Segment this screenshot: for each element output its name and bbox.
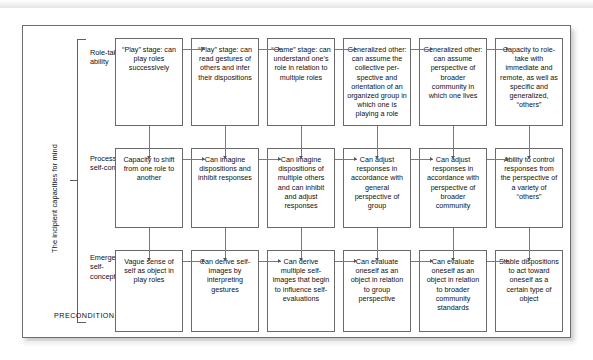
arrowhead-right-r3-c2 [278, 259, 281, 263]
node-role-taking-ability-3: “Game” stage: can understand one’s role … [267, 38, 335, 126]
figure-frame: The incipient capacities for mind Role-t… [22, 25, 571, 338]
connector-v-r2-c4 [377, 228, 378, 261]
connector-v-r1-c4 [377, 126, 378, 159]
vertical-axis-caption: The incipient capacities for mind [50, 104, 59, 294]
arrowhead-down-r2-c5 [451, 258, 455, 261]
arrowhead-down-r1-c1 [147, 156, 151, 159]
page-top-band [0, 0, 593, 8]
arrowhead-right-r3-c1 [202, 259, 205, 263]
arrowhead-right-r1-c5 [506, 47, 509, 51]
connector-v-r2-c1 [149, 228, 150, 261]
arrowhead-down-r2-c3 [299, 258, 303, 261]
connector-v-r1-c3 [301, 126, 302, 159]
arrowhead-right-r2-c2 [278, 157, 281, 161]
arrowhead-right-r1-c1 [202, 47, 205, 51]
connector-v-r1-c6 [529, 126, 530, 159]
arrowhead-right-r3-c3 [354, 259, 357, 263]
arrowhead-down-r2-c6 [527, 258, 531, 261]
arrowhead-right-r2-c4 [430, 157, 433, 161]
connector-v-r2-c6 [529, 228, 530, 261]
node-role-taking-ability-5: Generalized other: can assume perspectiv… [419, 38, 487, 126]
connector-v-r1-c5 [453, 126, 454, 159]
capacities-bracket-tick [70, 180, 78, 181]
arrowhead-right-r1-c4 [430, 47, 433, 51]
node-processes-of-self-control-1: Capacity to shift from one role to anoth… [115, 148, 183, 228]
arrowhead-down-r2-c1 [147, 258, 151, 261]
arrowhead-down-r1-c5 [451, 156, 455, 159]
node-emergence-of-self-conception-1: Vague sense of self as object in play ro… [115, 250, 183, 332]
arrowhead-down-r1-c6 [527, 156, 531, 159]
arrowhead-right-r2-c3 [354, 157, 357, 161]
node-role-taking-ability-4: Generalized other: can assume the collec… [343, 38, 411, 126]
connector-v-r1-c2 [225, 126, 226, 159]
node-role-taking-ability-1: “Play” stage: can play roles successivel… [115, 38, 183, 126]
capacities-bracket [77, 39, 86, 323]
node-role-taking-ability-6: Capacity to role-take with immediate and… [495, 38, 563, 126]
arrowhead-right-r2-c1 [202, 157, 205, 161]
arrowhead-right-r3-c5 [506, 259, 509, 263]
arrowhead-down-r1-c3 [299, 156, 303, 159]
arrowhead-right-r1-c3 [354, 47, 357, 51]
arrowhead-down-r2-c4 [375, 258, 379, 261]
node-role-taking-ability-2: “Play” stage: can read gestures of other… [191, 38, 259, 126]
arrowhead-right-r1-c2 [278, 47, 281, 51]
arrowhead-right-r3-c4 [430, 259, 433, 263]
connector-v-r2-c3 [301, 228, 302, 261]
connector-v-r1-c1 [149, 126, 150, 159]
connector-v-r2-c2 [225, 228, 226, 261]
arrowhead-down-r1-c2 [223, 156, 227, 159]
arrowhead-right-r2-c5 [506, 157, 509, 161]
precondition-label: PRECONDITION [54, 311, 115, 320]
page-bottom-band [24, 341, 572, 347]
arrowhead-down-r1-c4 [375, 156, 379, 159]
arrowhead-down-r2-c2 [223, 258, 227, 261]
connector-v-r2-c5 [453, 228, 454, 261]
